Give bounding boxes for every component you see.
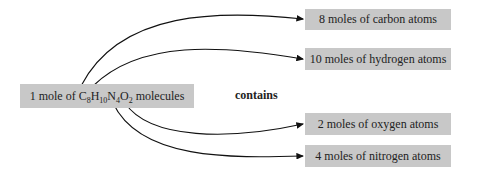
target-hydrogen: 10 moles of hydrogen atoms — [305, 48, 451, 70]
arrow-hydrogen — [93, 49, 303, 86]
formula-n: N — [107, 89, 116, 103]
target-oxygen: 2 moles of oxygen atoms — [305, 113, 451, 135]
relation-label: contains — [235, 88, 278, 103]
target-nitrogen: 4 moles of nitrogen atoms — [305, 145, 451, 167]
target-carbon: 8 moles of carbon atoms — [305, 9, 451, 30]
source-prefix: 1 mole of — [30, 89, 79, 103]
source-molecule-box: 1 mole of C8H10N4O2 molecules — [20, 84, 194, 108]
formula-o: O — [120, 89, 129, 103]
source-suffix: molecules — [133, 89, 185, 103]
arrow-carbon — [81, 15, 303, 86]
formula-c: C — [79, 89, 87, 103]
